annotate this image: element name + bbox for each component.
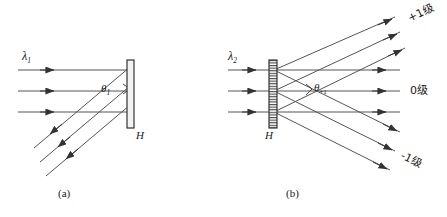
panel-b-grating-plate — [269, 60, 277, 128]
panel-b-wavelength-label: λ2 — [228, 50, 237, 65]
panel-a-caption: (a) — [58, 188, 70, 199]
panel-b-order-minus1-rays — [274, 70, 400, 170]
panel-a-wavelength-label: λ1 — [22, 50, 31, 65]
panel-a-rays-incident — [18, 70, 130, 112]
panel-b-order-plus1-rays — [274, 17, 405, 112]
panel-a-rays-diffracted — [34, 67, 130, 176]
panel-a-hologram-plate — [127, 60, 134, 128]
panel-b-plate-label: H — [265, 130, 273, 141]
panel-a-plate-label: H — [136, 130, 144, 141]
optical-diffraction-figure: λ1 θ1 H (a) λ2 θ+1 H +1级 0级 -1级 (b) — [0, 0, 447, 217]
panel-a-angle-label: θ1 — [101, 83, 110, 97]
order-label-zero: 0级 — [410, 85, 428, 96]
figure-vector-graphics — [0, 0, 447, 217]
panel-b-angle-label: θ+1 — [314, 82, 327, 96]
panel-b-caption: (b) — [286, 188, 299, 199]
panel-b-rays-incident — [228, 70, 272, 112]
panel-b-order-zero-rays — [274, 70, 400, 112]
